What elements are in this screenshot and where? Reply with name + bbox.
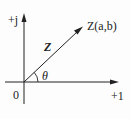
real-axis-arrow-icon bbox=[110, 80, 119, 85]
angle-arc bbox=[34, 72, 38, 82]
real-axis-label: +1 bbox=[111, 90, 124, 102]
origin-label: 0 bbox=[13, 89, 19, 101]
complex-plane-diagram: +j Z(a,b) Z θ 0 +1 bbox=[0, 0, 131, 119]
imaginary-axis-label: +j bbox=[8, 14, 18, 26]
imaginary-axis-arrow-icon bbox=[22, 13, 27, 22]
angle-label: θ bbox=[42, 70, 48, 82]
vector-z bbox=[24, 31, 78, 82]
vector-label: Z bbox=[44, 41, 51, 53]
point-label: Z(a,b) bbox=[87, 20, 117, 32]
